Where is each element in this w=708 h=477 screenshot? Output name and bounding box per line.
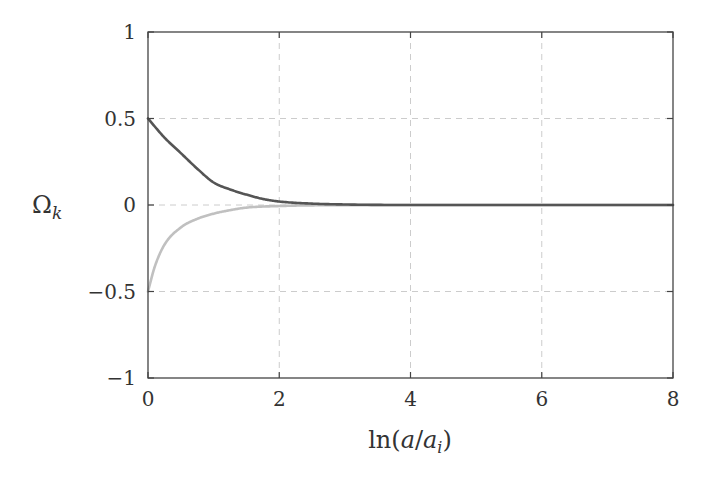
y-axis-label: Ωk: [32, 191, 62, 223]
line-chart: 02468 −1−0.500.51 ln(a/ai) Ωk: [0, 0, 708, 477]
x-tick-label: 8: [667, 387, 680, 411]
x-tick-labels: 02468: [142, 387, 680, 411]
y-tick-label: −0.5: [87, 280, 136, 304]
y-tick-label: 0.5: [104, 107, 136, 131]
y-tick-label: 0: [123, 193, 136, 217]
y-tick-labels: −1−0.500.51: [87, 20, 136, 390]
x-tick-label: 2: [273, 387, 286, 411]
y-tick-label: −1: [107, 366, 136, 390]
x-tick-label: 6: [535, 387, 548, 411]
x-axis-label: ln(a/ai): [368, 426, 452, 457]
y-tick-label: 1: [123, 20, 136, 44]
x-tick-label: 0: [142, 387, 155, 411]
x-tick-label: 4: [404, 387, 417, 411]
